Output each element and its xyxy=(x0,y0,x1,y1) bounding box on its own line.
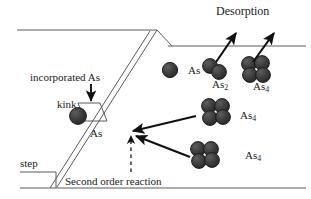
label-step: step xyxy=(20,158,38,169)
arrow-group xyxy=(133,33,274,157)
label-as4-middle: As4 xyxy=(240,110,256,123)
as-incorporation-diagram: Desorption incorporated As kink As step … xyxy=(0,0,311,199)
as-adatom-terrace xyxy=(162,62,177,77)
upper-terrace-right-edge xyxy=(157,30,172,46)
as-atom-at-kink xyxy=(70,108,87,125)
label-as4-middle-text: As xyxy=(240,109,252,121)
label-kink: kink xyxy=(57,99,77,110)
label-as4-lower-text: As xyxy=(245,149,257,161)
label-as2-subscript: 2 xyxy=(224,83,228,92)
label-as4-top-subscript: 4 xyxy=(265,85,269,94)
label-as2: As2 xyxy=(212,79,228,92)
label-as2-text: As xyxy=(212,78,224,90)
as2-dimer xyxy=(203,59,227,80)
desorption-arrow-as2 xyxy=(216,33,236,62)
as4-tetramer-lower xyxy=(191,142,220,169)
label-as4-top: As4 xyxy=(253,81,269,94)
label-incorporated-as: incorporated As xyxy=(30,72,100,83)
label-second-order-reaction: Second order reaction xyxy=(65,176,162,187)
label-as4-lower-subscript: 4 xyxy=(257,154,261,163)
label-as-adatom: As xyxy=(188,65,200,76)
label-as-at-kink: As xyxy=(90,128,102,139)
as4-middle-to-kink-arrow xyxy=(133,116,196,131)
label-as4-middle-subscript: 4 xyxy=(252,114,256,123)
as4-lower-to-kink-arrow xyxy=(136,136,190,157)
label-as4-lower: As4 xyxy=(245,150,261,163)
label-as4-top-text: As xyxy=(253,80,265,92)
label-desorption: Desorption xyxy=(216,5,269,17)
diagram-canvas xyxy=(0,0,311,199)
as4-tetramer-middle xyxy=(202,99,231,126)
